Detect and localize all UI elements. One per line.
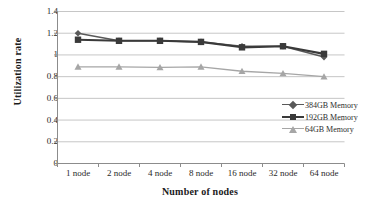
x-axis-ticks [58, 164, 345, 168]
series-192gb-memory [75, 37, 327, 58]
legend-item[interactable]: 192GB Memory [282, 111, 368, 123]
utilization-rate-line-chart: Utilization rate 00.20.40.60.811.21.4 1 … [0, 0, 371, 206]
legend-key-square-icon [282, 112, 304, 122]
data-point-marker [321, 51, 327, 57]
legend-label: 384GB Memory [304, 101, 358, 110]
legend-item[interactable]: 384GB Memory [282, 99, 368, 111]
data-point-marker [116, 38, 122, 44]
series-64gb-memory [75, 63, 328, 79]
legend-marker [289, 101, 297, 109]
data-point-marker [75, 37, 81, 43]
x-tick-label: 64 node [298, 168, 350, 178]
data-point-marker [198, 39, 204, 45]
legend-marker [289, 126, 297, 133]
data-point-marker [157, 38, 163, 44]
legend-key-diamond-icon [282, 100, 304, 110]
legend-marker [290, 114, 296, 120]
axis-lines [54, 12, 345, 164]
data-point-marker [280, 43, 286, 49]
legend-item[interactable]: 64GB Memory [282, 123, 368, 135]
data-point-marker [75, 30, 82, 37]
series-384gb-memory [75, 30, 328, 60]
legend: 384GB Memory192GB Memory64GB Memory [282, 99, 368, 135]
legend-key-triangle-icon [282, 124, 304, 134]
legend-label: 64GB Memory [304, 125, 354, 134]
x-axis-tick-labels: 1 node2 node4 node8 node16 node32 node64… [60, 168, 345, 182]
legend-label: 192GB Memory [304, 113, 358, 122]
x-axis-title: Number of nodes [55, 186, 345, 197]
data-point-marker [239, 44, 245, 50]
